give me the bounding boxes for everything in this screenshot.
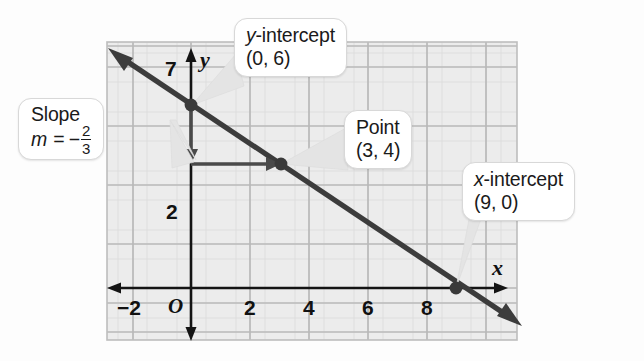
x-tick-label-4: 4 (303, 296, 315, 320)
callout-y-intercept: y-intercept (0, 6) (234, 18, 347, 77)
slope-variable: m (31, 128, 51, 151)
point-x-intercept (450, 282, 463, 295)
callout-y-intercept-coords: (0, 6) (246, 47, 335, 70)
point-y-intercept (185, 99, 198, 112)
callout-point-coords: (3, 4) (356, 139, 400, 162)
callout-point-title: Point (356, 116, 400, 139)
slope-minus-sign: − (69, 128, 81, 151)
callout-x-intercept-title: x-intercept (474, 168, 563, 191)
slope-numerator: 2 (81, 123, 91, 139)
callout-slope-equation: m = − 2 3 (31, 126, 91, 153)
x-tick-label-6: 6 (362, 296, 374, 320)
slope-denominator: 3 (81, 139, 91, 156)
callout-point: Point (3, 4) (344, 110, 412, 169)
y-axis-name: y (200, 47, 210, 73)
callout-x-intercept: x-intercept (9, 0) (462, 162, 575, 221)
slope-fraction: 2 3 (81, 123, 91, 156)
callout-x-intercept-coords: (9, 0) (474, 191, 563, 214)
figure-canvas: 7 2 y x −2 O 2 4 6 8 Slope m = − 2 3 y-i… (0, 0, 644, 361)
x-axis-name: x (492, 255, 503, 281)
x-tick-label-neg2: −2 (117, 296, 141, 320)
callout-y-intercept-title: y-intercept (246, 24, 335, 47)
point-3-4 (275, 158, 288, 171)
slope-equals: = (51, 128, 68, 151)
y-tick-label-2: 2 (166, 200, 178, 224)
x-tick-label-2: 2 (244, 296, 256, 320)
origin-label: O (168, 294, 183, 319)
y-tick-label-7: 7 (165, 57, 177, 81)
x-tick-label-8: 8 (421, 296, 433, 320)
callout-slope: Slope m = − 2 3 (18, 98, 104, 160)
